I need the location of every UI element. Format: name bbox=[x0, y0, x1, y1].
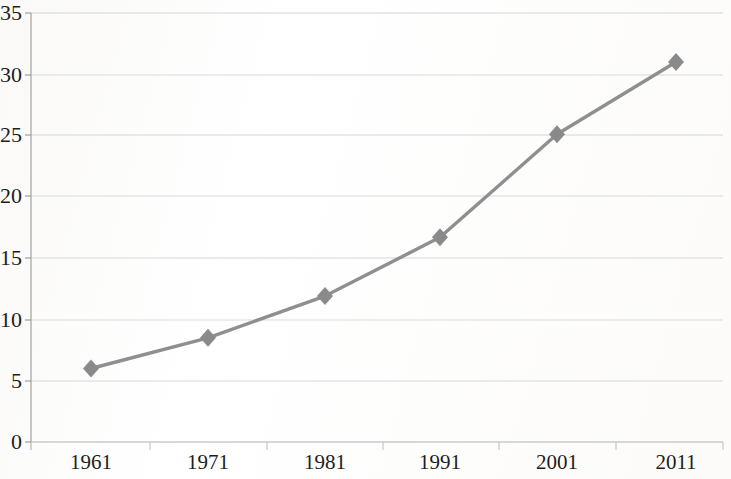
data-point-marker-group bbox=[83, 53, 684, 378]
x-tick-label: 1971 bbox=[158, 452, 258, 473]
y-tick-label: 5 bbox=[0, 370, 22, 392]
y-tick-label: 25 bbox=[0, 124, 22, 146]
data-point-marker bbox=[317, 287, 333, 305]
y-tick-label: 0 bbox=[0, 431, 22, 453]
x-tick-label: 1981 bbox=[275, 452, 375, 473]
y-tick-label: 10 bbox=[0, 309, 22, 331]
chart-container: 35 30 25 20 15 10 5 0 1961 1971 1981 199… bbox=[0, 0, 731, 479]
x-tick-label: 1991 bbox=[390, 452, 490, 473]
y-tick-label: 30 bbox=[0, 64, 22, 86]
data-point-marker bbox=[668, 53, 684, 71]
y-tick-label: 35 bbox=[0, 2, 22, 24]
x-tick-label: 2001 bbox=[507, 452, 607, 473]
x-tick-marks bbox=[31, 442, 723, 450]
line-chart-plot bbox=[0, 0, 731, 479]
data-series-line bbox=[91, 62, 676, 369]
gridline-group bbox=[31, 13, 723, 381]
data-point-marker bbox=[200, 329, 216, 347]
y-tick-marks bbox=[25, 13, 31, 442]
x-tick-label: 2011 bbox=[626, 452, 726, 473]
data-point-marker bbox=[83, 360, 99, 378]
y-tick-label: 20 bbox=[0, 185, 22, 207]
axis-group bbox=[31, 13, 723, 442]
x-tick-label: 1961 bbox=[41, 452, 141, 473]
y-tick-label: 15 bbox=[0, 247, 22, 269]
